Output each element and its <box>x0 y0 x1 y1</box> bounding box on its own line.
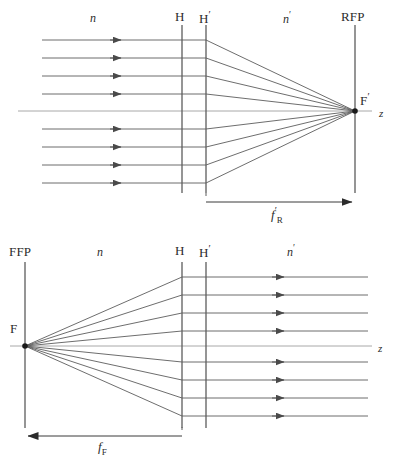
upper-panel <box>18 25 372 202</box>
refractive-index-n-lower: n <box>97 246 103 258</box>
n-prime-mark-upper: ′ <box>289 10 291 20</box>
n-prime-mark-lower: ′ <box>293 243 295 253</box>
principal-plane-label-h-prime-upper: H′ <box>199 10 211 25</box>
optics-figure: n H H′ n′ RFP F′ z f′R FFP n H H′ n′ F z… <box>0 0 399 462</box>
front-focal-point-dot <box>22 343 28 349</box>
h-prime-letter-upper: H <box>199 11 209 26</box>
refractive-index-n-prime-lower: n′ <box>287 244 295 258</box>
h-prime-letter-lower: H <box>199 245 209 260</box>
rear-focal-length-label: f′R <box>271 206 283 225</box>
axis-label-z-lower: z <box>378 343 382 354</box>
rear-focal-point-label: F′ <box>360 92 370 107</box>
refractive-index-n-prime-upper: n′ <box>283 11 291 25</box>
front-focal-length-label: fF <box>98 440 107 457</box>
rear-focal-plane-label: RFP <box>341 10 365 23</box>
principal-plane-label-h-upper: H <box>175 10 185 23</box>
focal-length-subscript-upper: R <box>277 215 283 225</box>
principal-plane-label-h-lower: H <box>175 244 185 257</box>
diagram-canvas <box>0 0 399 462</box>
f-prime-mark: ′ <box>367 91 369 102</box>
lower-panel <box>10 262 372 436</box>
axis-label-z-upper: z <box>379 108 383 119</box>
front-focal-point-label: F <box>10 322 17 335</box>
rear-focal-point-dot <box>352 108 358 114</box>
principal-plane-label-h-prime-lower: H′ <box>199 244 211 259</box>
focal-length-subscript-lower: F <box>102 447 107 457</box>
front-focal-plane-label: FFP <box>9 245 31 258</box>
h-prime-mark-upper: ′ <box>209 9 211 20</box>
refractive-index-n-upper: n <box>90 12 96 24</box>
h-prime-mark-lower: ′ <box>209 243 211 254</box>
